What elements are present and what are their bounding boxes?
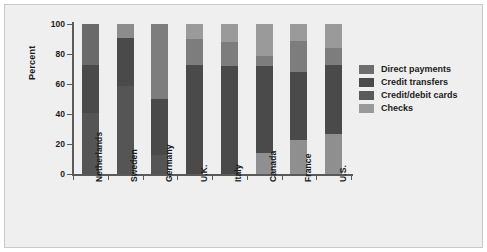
bar-segment [256,56,273,67]
y-axis-tick-label: 20 [33,140,65,148]
legend-item[interactable]: Direct payments [359,65,458,74]
legend-label: Credit/debit cards [381,91,458,100]
x-axis-label: Netherlands [94,132,104,182]
legend-swatch-icon [359,104,374,113]
bar-segment [82,24,99,65]
bar-segment [221,42,238,66]
bar-segment [151,24,168,99]
bar-segment [325,65,342,134]
legend-label: Direct payments [381,65,451,74]
bar-segment [256,66,273,153]
x-axis-label: U.S. [338,165,348,182]
bar-segment [325,48,342,65]
legend-item[interactable]: Checks [359,104,458,113]
x-axis-tick [351,174,352,180]
y-axis-tick-label: 80 [33,50,65,58]
x-axis-label: Canada [268,151,278,182]
bar-segment [256,24,273,56]
bar-segment [117,38,134,86]
chart-figure: Percent 020406080100 NetherlandsSwedenGe… [4,4,483,248]
y-axis-tick [67,114,73,115]
x-axis-label: Germany [164,144,174,182]
x-axis-tick [108,174,109,180]
y-axis-tick-label: 100 [33,20,65,28]
legend-item[interactable]: Credit transfers [359,78,458,87]
bar-segment [325,24,342,48]
x-axis-tick [282,174,283,180]
bar-segment [221,24,238,42]
x-axis-label: U.K. [199,165,209,182]
x-axis-tick [73,174,74,180]
bar-segment [186,65,203,175]
y-axis-tick [67,54,73,55]
y-axis-tick-label: 0 [33,170,65,178]
y-axis-tick-label: 60 [33,80,65,88]
bar-segment [186,24,203,39]
x-axis-tick [177,174,178,180]
x-axis-label: Italy [233,164,243,182]
bar-u-k[interactable] [186,24,203,174]
bar-segment [290,41,307,73]
bar-segment [82,65,99,113]
x-axis-label: Sweden [129,149,139,182]
legend-label: Checks [381,104,413,113]
chart-legend: Direct paymentsCredit transfersCredit/de… [359,65,458,113]
x-axis-label: France [303,154,313,182]
y-axis-tick [67,24,73,25]
bar-u-s[interactable] [325,24,342,174]
y-axis-tick [67,144,73,145]
x-axis-tick [212,174,213,180]
x-axis-tick [143,174,144,180]
plot-area: 020406080100 NetherlandsSwedenGermanyU.K… [73,24,351,174]
x-axis-tick [316,174,317,180]
bar-france[interactable] [290,24,307,174]
legend-swatch-icon [359,91,374,100]
bar-segment [290,72,307,140]
x-axis-tick [247,174,248,180]
legend-label: Credit transfers [381,78,448,87]
y-axis-tick-label: 40 [33,110,65,118]
legend-swatch-icon [359,65,374,74]
legend-swatch-icon [359,78,374,87]
legend-item[interactable]: Credit/debit cards [359,91,458,100]
bar-segment [221,66,238,174]
bar-segment [186,39,203,65]
y-axis-tick [67,84,73,85]
bar-segment [117,24,134,38]
bar-segment [290,24,307,41]
bar-italy[interactable] [221,24,238,174]
